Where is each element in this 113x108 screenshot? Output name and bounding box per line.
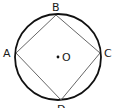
vertex-label-d: D — [57, 103, 65, 108]
center-point-o — [57, 56, 60, 59]
geometry-diagram: A B C D O — [0, 0, 113, 108]
vertex-label-a: A — [3, 47, 11, 60]
vertex-label-c: C — [104, 47, 112, 60]
center-label-o: O — [62, 51, 71, 64]
vertex-label-b: B — [52, 1, 60, 14]
